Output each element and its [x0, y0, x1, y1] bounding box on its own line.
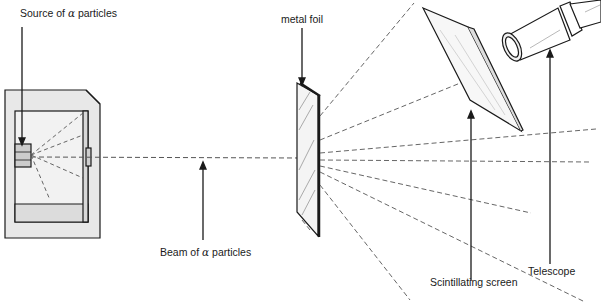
source-label-prefix: Source of [20, 7, 65, 19]
source-label-suffix: particles [78, 7, 117, 19]
alpha-symbol: α [202, 246, 209, 258]
alpha-scattering-diagram [0, 0, 601, 307]
beam-label: Beam of α particles [160, 246, 251, 258]
telescope-label: Telescope [528, 265, 575, 277]
beam-label-suffix: particles [212, 246, 251, 258]
alpha-symbol: α [68, 7, 75, 19]
metal-foil-label: metal foil [281, 13, 323, 25]
beam-label-prefix: Beam of [160, 246, 199, 258]
scintillating-screen-label: Scintillating screen [430, 276, 518, 288]
alpha-source [15, 144, 31, 167]
scintillating-screen [423, 8, 523, 131]
metal-foil [297, 83, 320, 237]
source-label: Source of α particles [20, 7, 117, 19]
